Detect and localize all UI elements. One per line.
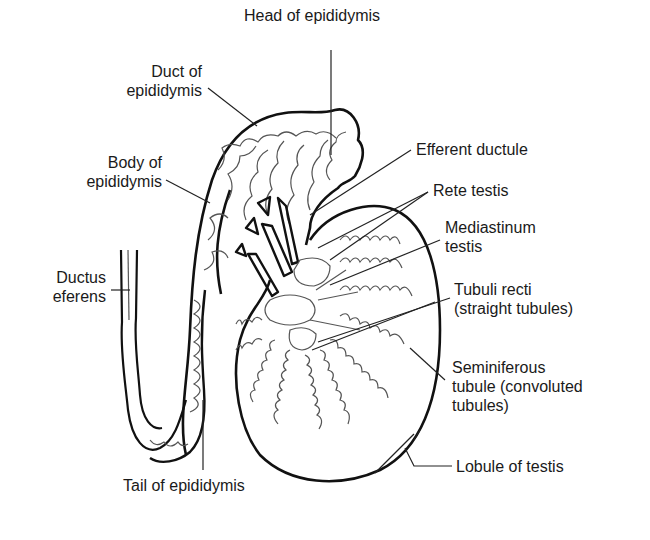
label-tubuli-recti: Tubuli recti (straight tubules)	[454, 280, 573, 318]
label-ductus-eferens: Ductus eferens	[30, 268, 106, 306]
ductus-deferens	[121, 250, 186, 450]
leader-tubuli-2	[312, 302, 435, 350]
label-duct-of-epididymis: Duct of epididymis	[104, 62, 202, 100]
leader-body	[166, 180, 210, 203]
label-mediastinum-testis: Mediastinum testis	[445, 218, 536, 256]
label-lobule-of-testis: Lobule of testis	[456, 457, 564, 476]
testis-epididymis-diagram: Head of epididymis Duct of epididymis Bo…	[0, 0, 650, 540]
label-efferent-ductule: Efferent ductule	[416, 140, 528, 159]
leader-duct	[208, 88, 257, 126]
leader-efferent	[310, 150, 411, 215]
label-body-of-epididymis: Body of epididymis	[64, 153, 162, 191]
label-seminiferous-tubule: Seminiferous tubule (convoluted tubules)	[452, 358, 583, 415]
leader-rete-2	[330, 192, 428, 260]
label-head-of-epididymis: Head of epididymis	[244, 6, 380, 25]
tail-coils	[150, 300, 200, 446]
label-rete-testis: Rete testis	[433, 181, 509, 200]
leader-tubuli-1	[318, 298, 450, 342]
label-tail-of-epididymis: Tail of epididymis	[123, 476, 245, 495]
leader-mediastinum	[330, 240, 440, 285]
